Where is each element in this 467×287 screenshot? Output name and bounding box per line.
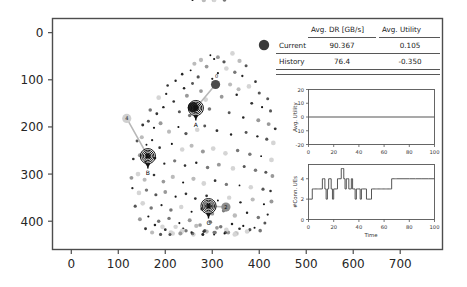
inset-x-tick: 60 [381,224,388,230]
scatter-point [214,179,217,182]
utility-y-axis-label: Avg. Utility [292,102,299,132]
scatter-point [178,110,181,113]
inset-y-tick: 20 [297,87,304,93]
ues-y-axis-label: #Conn. UEs [292,176,298,208]
ue-label: 2 [224,204,227,210]
table-row-current-dr: 90.367 [329,41,354,50]
scatter-point [191,211,193,213]
scatter-point [195,127,200,132]
scatter-point [222,60,225,63]
scatter-point [269,190,272,193]
scatter-point [267,122,271,126]
scatter-point [203,125,206,128]
scatter-point [246,212,248,214]
base-station-label: B [146,169,150,176]
scatter-point [251,197,255,201]
scatter-point [242,116,245,119]
scatter-point [231,166,236,171]
scatter-point [197,75,200,78]
x-tick-label: 0 [67,257,75,271]
inset-x-tick: 40 [356,149,363,155]
scatter-point [215,226,219,230]
scatter-point [178,222,180,224]
scatter-point [235,94,238,97]
scatter-point [209,54,211,56]
ue-label: 4 [125,115,128,121]
ue-node-4[interactable]: 4 [122,114,131,123]
scatter-point [165,93,167,95]
scatter-point [199,58,203,62]
scatter-point [164,228,167,231]
scatter-point [198,223,202,227]
x-tick-label: 300 [201,257,224,271]
scatter-point [243,165,246,168]
scatter-point [154,224,157,227]
scatter-point [136,172,141,177]
scatter-point [140,135,144,139]
scatter-point [225,183,228,186]
y-tick-label: 200 [21,120,44,134]
scatter-point [171,143,173,145]
inset-y-tick: -20 [296,142,304,148]
scatter-point [271,141,276,146]
scatter-point [201,181,206,186]
table-header-dr: Avg. DR [GB/s] [311,25,364,34]
inset-x-tick: 60 [381,149,388,155]
scatter-point [269,199,273,203]
scatter-point [149,206,153,210]
scatter-point [256,135,258,137]
scatter-point [258,91,261,94]
scatter-point [132,158,135,161]
scatter-point [183,87,186,90]
x-tick-label: 600 [342,257,365,271]
scatter-point [169,208,173,212]
table-row-current-utility: 0.105 [400,41,421,50]
scatter-point [254,80,257,83]
inset-x-tick: 0 [307,149,310,155]
scatter-point [233,213,237,217]
inset-y-tick: 2 [301,196,304,202]
ue-node-2[interactable]: 2 [221,202,230,211]
scatter-point [224,233,226,235]
scatter-point [263,203,265,205]
ues-x-axis-label: Time [363,232,378,238]
y-tick-label: 100 [21,73,44,87]
inset-x-tick: 20 [330,224,337,230]
scatter-point [190,69,192,71]
inset-chart-utility: 020406080100-20-1001020 Avg. Utility [292,87,439,155]
scatter-point [254,227,256,229]
table-row-history-utility: -0.350 [398,57,422,66]
scatter-point [146,144,148,146]
scatter-point [224,66,229,71]
scatter-point [237,59,241,63]
scatter-point [258,229,262,233]
inset-x-tick: 0 [307,224,310,230]
scatter-point [151,139,153,141]
inset-y-tick: 10 [297,100,304,106]
scatter-point [242,225,244,227]
scatter-point [201,149,205,153]
scatter-point [129,176,133,180]
scatter-point [205,65,209,69]
scatter-point [191,177,195,181]
scatter-point [205,194,208,197]
scatter-point [266,97,269,100]
scatter-point [173,225,177,229]
scatter-point [178,232,182,236]
scatter-point [190,144,194,148]
scatter-point [168,233,171,236]
scatter-point [184,229,188,233]
scatter-point [269,158,274,163]
scatter-point [270,174,274,178]
scatter-point [236,149,239,152]
scatter-point [216,55,220,59]
scatter-point [250,102,253,105]
y-tick-label: 400 [21,215,44,229]
scatter-point [156,95,161,100]
scatter-point [173,159,176,162]
scatter-point [239,201,241,203]
scatter-point [230,133,232,135]
scatter-point [192,62,196,66]
scatter-point [213,58,215,60]
scatter-point [160,204,162,206]
